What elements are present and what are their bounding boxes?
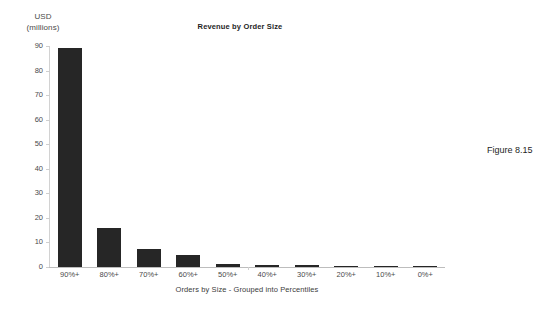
figure-container: USD (millions) Revenue by Order Size 010… [0, 0, 470, 310]
x-axis-tick-text: 70%+ [139, 270, 158, 279]
x-axis-tick-label: 70%+ [129, 270, 169, 279]
y-axis-tick-label: 20 [19, 214, 43, 222]
bar-slot [169, 46, 209, 267]
plot-area: 0102030405060708090 [49, 46, 445, 267]
x-axis-tick-text: 10%+ [376, 270, 395, 279]
bar-slot [90, 46, 130, 267]
x-axis-tick-text: 20%+ [337, 270, 356, 279]
y-axis-tick-label: 0 [19, 263, 43, 271]
x-axis-tick-label: 80%+ [90, 270, 130, 279]
x-axis-tick-label: 10%+ [366, 270, 406, 279]
bar-slot [327, 46, 367, 267]
x-axis-tick-text: 30%+ [297, 270, 316, 279]
x-axis-tick-mark [248, 267, 249, 270]
bar-slot [208, 46, 248, 267]
bar-slot [129, 46, 169, 267]
x-axis-tick-labels: 90%+80%+70%+60%+50%+40%+30%+20%+10%+0%+ [50, 270, 445, 279]
y-axis-tick-label: 50 [19, 140, 43, 148]
y-axis-tick-label: 90 [19, 42, 43, 50]
bar-slot [366, 46, 406, 267]
x-axis-tick-text: 50%+ [218, 270, 237, 279]
x-axis-tick-label: 50%+ [208, 270, 248, 279]
bar-slot [287, 46, 327, 267]
x-axis-tick-label: 60%+ [169, 270, 209, 279]
bar[interactable] [137, 249, 161, 267]
bar[interactable] [97, 228, 121, 267]
bar-slot [50, 46, 90, 267]
y-axis-tick-label: 70 [19, 91, 43, 99]
x-axis-tick-label: 20%+ [327, 270, 367, 279]
y-axis-unit-line2: (millions) [12, 22, 74, 33]
y-axis-tick-label: 30 [19, 189, 43, 197]
x-axis-tick-label: 90%+ [50, 270, 90, 279]
bar[interactable] [58, 48, 82, 267]
x-axis-title: Orders by Size - Grouped into Percentile… [49, 285, 445, 294]
y-axis-unit-line1: USD [12, 11, 74, 22]
x-axis-tick-text: 0%+ [418, 270, 433, 279]
bar[interactable] [176, 255, 200, 267]
bar-slot [406, 46, 446, 267]
y-axis-tick-label: 10 [19, 238, 43, 246]
x-axis-tick-text: 60%+ [179, 270, 198, 279]
x-axis-tick-text: 40%+ [258, 270, 277, 279]
y-axis-tick-label: 40 [19, 165, 43, 173]
bar-slot [248, 46, 288, 267]
figure-caption: Figure 8.15 [487, 145, 533, 155]
x-axis-tick-text: 80%+ [100, 270, 119, 279]
y-axis-tick-label: 60 [19, 116, 43, 124]
x-axis-tick-label: 30%+ [287, 270, 327, 279]
chart-title: Revenue by Order Size [140, 22, 340, 31]
bar-series [50, 46, 445, 267]
y-axis-tick-label: 80 [19, 67, 43, 75]
x-axis-tick-label: 0%+ [406, 270, 446, 279]
y-axis-unit-label: USD (millions) [12, 11, 74, 33]
x-axis-tick-label: 40%+ [248, 270, 288, 279]
x-axis-tick-text: 90%+ [60, 270, 79, 279]
